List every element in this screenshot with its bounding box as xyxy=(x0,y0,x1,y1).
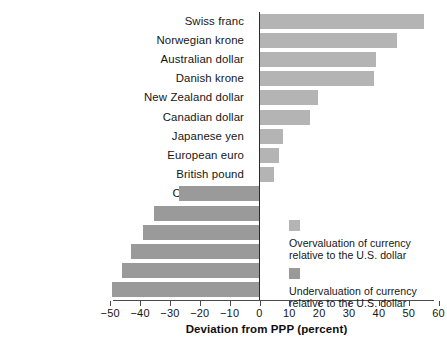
x-axis-tick xyxy=(200,301,201,306)
bar-canadian-dollar xyxy=(260,110,311,125)
x-axis-tick xyxy=(409,301,410,306)
legend-label-undervaluation: Undervaluation of currency relative to t… xyxy=(289,285,444,310)
x-axis-title: Deviation from PPP (percent) xyxy=(0,323,447,335)
bar-turkish-lira xyxy=(112,282,260,297)
x-axis-tick xyxy=(260,301,261,306)
legend-label-overvaluation: Overvaluation of currency relative to th… xyxy=(289,237,444,262)
x-axis-tick-label: 60 xyxy=(419,307,447,319)
legend-label-undervaluation-line1: Undervaluation of currency xyxy=(289,285,444,297)
x-axis-tick xyxy=(439,301,440,306)
x-axis-tick xyxy=(289,301,290,306)
x-axis-tick xyxy=(170,301,171,306)
bar-mexican-peso xyxy=(154,206,260,221)
ppp-deviation-bar-chart: Swiss francNorwegian kroneAustralian dol… xyxy=(0,0,447,342)
x-axis-tick xyxy=(230,301,231,306)
legend-entry-undervaluation: Undervaluation of currency relative to t… xyxy=(289,267,444,310)
bar-czech-koruna xyxy=(179,186,260,201)
x-axis-tick xyxy=(379,301,380,306)
x-axis-title-text: Deviation from PPP (percent) xyxy=(100,323,348,335)
legend-label-overvaluation-line2: relative to the U.S. dollar xyxy=(289,249,444,261)
chart-legend: Overvaluation of currency relative to th… xyxy=(289,219,444,315)
x-axis-tick xyxy=(140,301,141,306)
bar-russian-ruble xyxy=(131,244,259,259)
x-axis-tick xyxy=(110,301,111,306)
bar-norwegian-krone xyxy=(260,33,397,48)
legend-swatch-overvaluation-icon xyxy=(289,220,300,231)
bar-polish-zloty xyxy=(143,225,259,240)
legend-swatch-undervaluation-icon xyxy=(289,268,300,279)
bar-swiss-franc xyxy=(260,14,424,29)
bar-danish-krone xyxy=(260,71,375,86)
bar-european-euro xyxy=(260,148,279,163)
x-axis-tick xyxy=(319,301,320,306)
bar-british-pound xyxy=(260,167,275,182)
x-axis-tick xyxy=(349,301,350,306)
bar-new-zealand-dollar xyxy=(260,90,318,105)
legend-entry-overvaluation: Overvaluation of currency relative to th… xyxy=(289,219,444,262)
bar-south-african-rand xyxy=(122,263,259,278)
bar-australian-dollar xyxy=(260,52,376,67)
bar-japanese-yen xyxy=(260,129,284,144)
legend-label-overvaluation-line1: Overvaluation of currency xyxy=(289,237,444,249)
